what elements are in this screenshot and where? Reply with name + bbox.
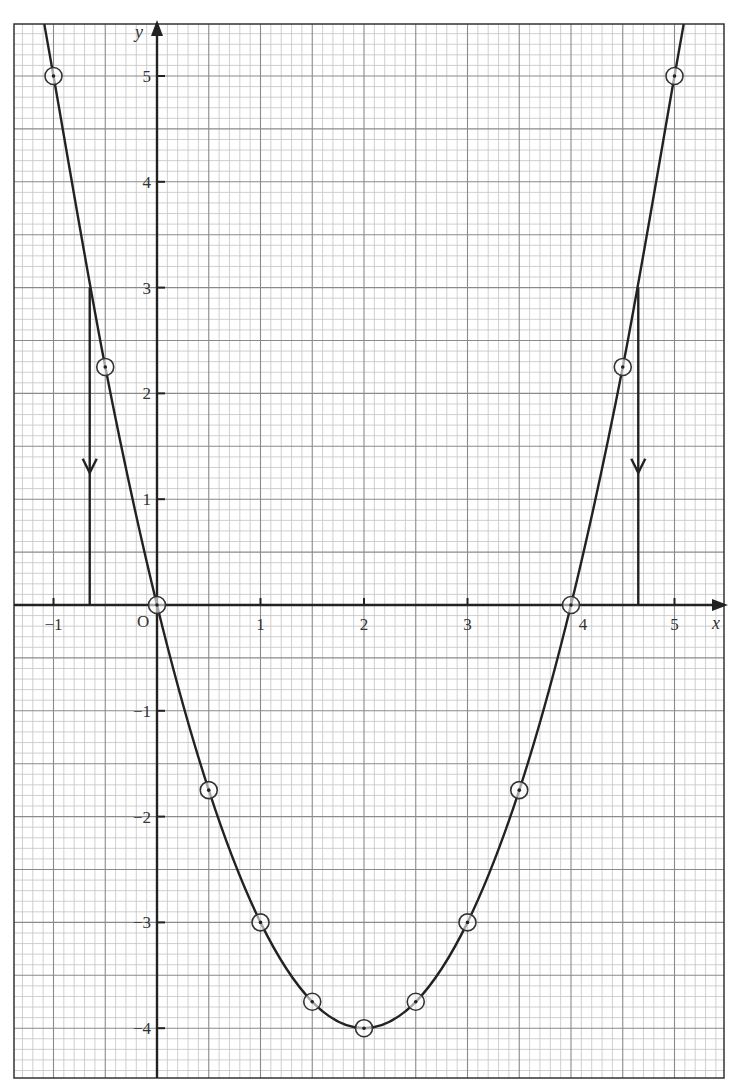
- axes: [14, 20, 728, 1078]
- x-tick-label: 1: [256, 615, 265, 634]
- y-tick-label: 5: [143, 67, 152, 86]
- data-point: [356, 1020, 373, 1037]
- y-tick-label: 2: [143, 384, 152, 403]
- data-point: [252, 914, 269, 931]
- data-point: [45, 68, 62, 85]
- data-point: [563, 597, 580, 614]
- x-tick-label: 3: [463, 615, 472, 634]
- y-tick-label: 3: [143, 279, 152, 298]
- data-point: [200, 782, 217, 799]
- x-tick-label: 4: [579, 615, 588, 634]
- point-dot-icon: [310, 1000, 314, 1004]
- x-axis-label: x: [711, 613, 720, 633]
- data-point: [149, 597, 166, 614]
- y-tick-label: −3: [133, 913, 151, 932]
- y-tick-label: 1: [143, 490, 152, 509]
- x-axis-arrowhead-icon: [712, 599, 728, 611]
- data-point: [614, 358, 631, 375]
- x-tick-label: 5: [670, 615, 679, 634]
- point-dot-icon: [52, 74, 56, 78]
- y-tick-label: 4: [143, 173, 152, 192]
- x-tick-label: 2: [360, 615, 369, 634]
- data-point: [459, 914, 476, 931]
- point-dot-icon: [466, 921, 470, 925]
- point-dot-icon: [414, 1000, 418, 1004]
- y-tick-label: −1: [133, 702, 151, 721]
- origin-label: O: [137, 612, 149, 631]
- graph-paper-chart: −11234554321−1−2−3−4 x y O: [0, 0, 744, 1091]
- y-tick-label: −2: [133, 808, 151, 827]
- point-dot-icon: [103, 365, 107, 369]
- y-tick-label: −4: [133, 1019, 152, 1038]
- point-dot-icon: [517, 788, 521, 792]
- y-axis-label: y: [133, 22, 143, 42]
- point-dot-icon: [207, 788, 211, 792]
- data-point: [407, 993, 424, 1010]
- data-point: [666, 68, 683, 85]
- point-dot-icon: [569, 603, 573, 607]
- point-dot-icon: [362, 1026, 366, 1030]
- point-dot-icon: [155, 603, 159, 607]
- data-point: [304, 993, 321, 1010]
- point-dot-icon: [673, 74, 677, 78]
- data-point: [511, 782, 528, 799]
- data-point: [97, 358, 114, 375]
- point-dot-icon: [259, 921, 263, 925]
- point-dot-icon: [621, 365, 625, 369]
- x-tick-label: −1: [44, 615, 62, 634]
- major-grid: [14, 24, 724, 1078]
- y-axis-arrowhead-icon: [151, 20, 163, 36]
